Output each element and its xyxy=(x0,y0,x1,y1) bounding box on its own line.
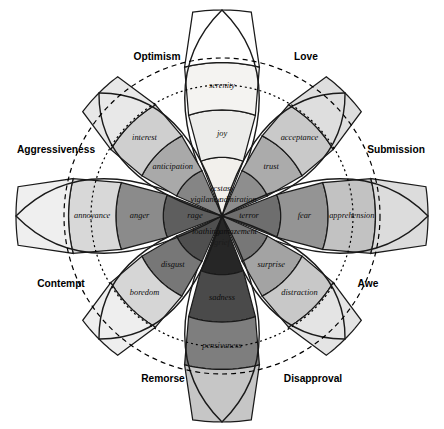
emotion-label-loathing: loathing xyxy=(192,227,220,236)
emotion-label-distraction: distraction xyxy=(281,288,317,297)
optimism-dyad: Optimism xyxy=(134,51,181,62)
emotion-label-grief: grief xyxy=(214,238,231,247)
emotion-label-fear: fear xyxy=(298,211,312,220)
emotion-label-rage: rage xyxy=(187,211,203,220)
emotion-label-joy: joy xyxy=(216,129,228,138)
joy-petal-tip-segment[interactable] xyxy=(185,10,260,67)
emotion-label-ecstasy: ecstasy xyxy=(210,184,234,193)
disapproval-dyad: Disapproval xyxy=(284,373,342,384)
emotion-label-apprehension: apprehension xyxy=(329,211,374,220)
sadness-petal-tip-segment[interactable] xyxy=(185,365,260,422)
emotion-label-interest: interest xyxy=(132,133,157,142)
emotion-label-amazement: amazement xyxy=(219,227,257,236)
emotion-label-acceptance: acceptance xyxy=(281,133,319,142)
plutchik-emotion-wheel: ecstasyjoyserenityadmirationtrustaccepta… xyxy=(0,0,444,429)
emotion-label-trust: trust xyxy=(264,162,280,171)
emotion-label-surprise: surprise xyxy=(257,260,285,269)
emotion-label-anticipation: anticipation xyxy=(153,162,193,171)
submission-dyad: Submission xyxy=(367,144,425,155)
emotion-label-terror: terror xyxy=(239,211,259,220)
emotion-label-admiration: admiration xyxy=(219,195,256,204)
love-dyad: Love xyxy=(294,51,318,62)
emotion-label-sadness: sadness xyxy=(209,293,235,302)
emotion-label-pensiveness: pensiveness xyxy=(201,341,242,350)
emotion-label-annoyance: annoyance xyxy=(74,211,111,220)
remorse-dyad: Remorse xyxy=(141,373,185,384)
emotion-label-anger: anger xyxy=(130,211,150,220)
aggressiveness-dyad: Aggressiveness xyxy=(17,144,95,155)
awe-dyad: Awe xyxy=(358,278,379,289)
emotion-label-serenity: serenity xyxy=(209,81,235,90)
emotion-label-vigilance: vigilance xyxy=(191,195,222,204)
contempt-dyad: Contempt xyxy=(37,278,85,289)
emotion-label-boredom: boredom xyxy=(130,288,159,297)
emotion-label-disgust: disgust xyxy=(161,260,185,269)
